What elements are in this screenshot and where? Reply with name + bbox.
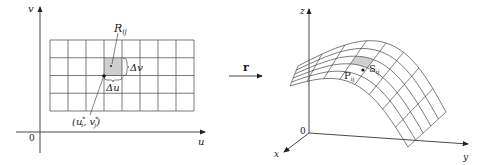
- y-axis: [309, 133, 468, 144]
- origin-label: 0: [29, 133, 35, 143]
- region-label: Rij: [113, 22, 128, 36]
- point-pij-dot: [361, 68, 364, 71]
- y-axis-label: y: [462, 152, 469, 162]
- mapping-label: r: [243, 61, 249, 74]
- region-rij-shaded: [104, 58, 122, 76]
- u-axis-label: u: [198, 136, 204, 147]
- parametric-surface: [290, 41, 446, 147]
- sample-point-pointer: [90, 78, 103, 115]
- mapping-r: r: [229, 61, 262, 76]
- diagram-canvas: v u 0 Rij Δv Δu (u*i, v*j) r z y x 0 Pij…: [0, 0, 487, 165]
- x-axis-label: x: [274, 149, 279, 159]
- delta-v-brace: [123, 58, 129, 76]
- uv-plane: v u 0 Rij Δv Δu (u*i, v*j): [16, 3, 205, 153]
- patch-sij-label: Sij: [369, 63, 380, 76]
- z-axis-label: z: [299, 6, 305, 16]
- v-axis-label: v: [28, 3, 34, 14]
- sample-point-label: (u*i, v*j): [72, 115, 100, 129]
- xyz-space: z y x 0 Pij Sij: [274, 6, 469, 162]
- delta-v-label: Δv: [129, 62, 143, 73]
- region-center-dot: [110, 65, 112, 67]
- delta-u-label: Δu: [105, 82, 120, 93]
- uv-grid: [50, 40, 194, 111]
- origin-label-3d: 0: [300, 126, 306, 136]
